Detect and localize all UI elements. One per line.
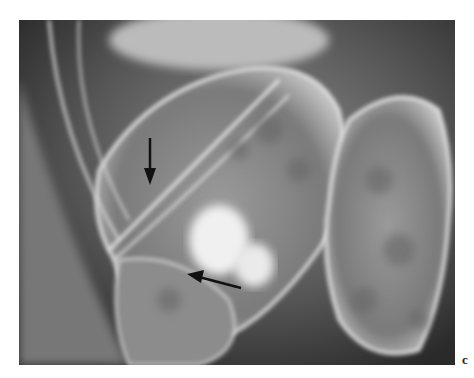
radiograph-image (19, 20, 455, 365)
panel-label: c (462, 352, 468, 368)
radiograph-drawing (19, 20, 455, 365)
